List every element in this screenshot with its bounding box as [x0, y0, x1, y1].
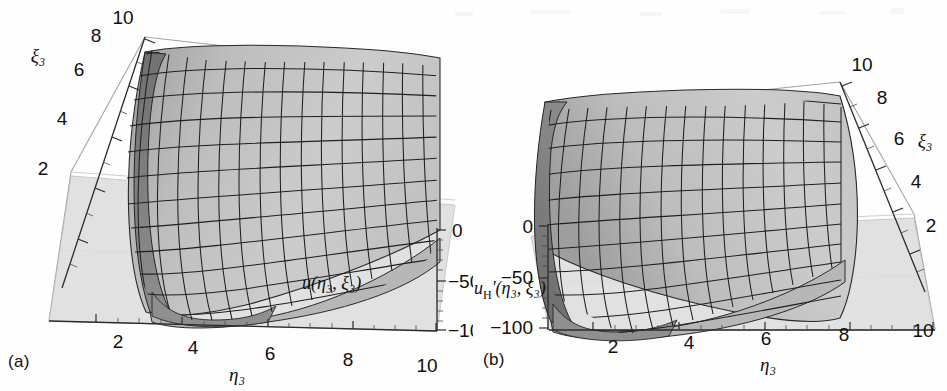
panel-a-svg: 2 4 6 8 10 ξ₃	[0, 0, 473, 391]
z-axis-label-close-b: )	[539, 278, 546, 299]
z-axis-label-xi-b: ξ₃	[526, 278, 540, 298]
z-axis-label-b: uH′(η₃, ξ₃)	[474, 278, 546, 302]
panel-b-svg: 10 8 6 4 2 ξ₃	[473, 0, 947, 391]
panel-caption-b: (b)	[483, 350, 505, 370]
y-tick-label-6-a: 6	[74, 59, 85, 80]
z-axis-label-base-b: u	[474, 278, 483, 298]
scan-artifact	[455, 12, 473, 16]
y-axis-label-text-a: ξ₃	[31, 45, 46, 66]
scan-artifact	[820, 11, 846, 15]
x-tick-label-8-b: 8	[839, 324, 850, 345]
x-tick-label-6-a: 6	[265, 343, 276, 364]
z-tick-label-minus50-a: −50	[448, 271, 473, 292]
x-tick-label-6-b: 6	[761, 328, 772, 349]
y-tick-label-4-b: 4	[911, 171, 922, 192]
surface-mesh-a	[127, 45, 440, 328]
z-tick-label-minus100-b: −100	[490, 317, 533, 338]
z-axis-label-subscript-b: H	[483, 288, 492, 302]
y-tick-label-6-b: 6	[894, 128, 905, 149]
y-tick-label-10-b: 10	[851, 54, 872, 75]
y-tick-label-10-a: 10	[112, 7, 133, 28]
y-tick-label-4-a: 4	[57, 108, 68, 129]
z-tick-label-0-a: 0	[452, 220, 463, 241]
x-tick-label-4-a: 4	[188, 337, 199, 358]
y-axis-label-text-b: ξ₃	[918, 130, 933, 151]
z-axis-label-text-a: u(η₃, ξ₃)	[302, 273, 361, 294]
x-tick-label-2-a: 2	[113, 331, 124, 352]
y-tick-label-2-b: 2	[926, 215, 937, 236]
z-axis-label-a: u(η₃, ξ₃)	[302, 273, 361, 294]
figure-container: 2 4 6 8 10 ξ₃	[0, 0, 947, 391]
x-axis-label-text-b: η₃	[760, 354, 776, 375]
z-axis-label-comma-b: ,	[517, 278, 526, 298]
z-tick-label-minus100-a: −100	[448, 320, 473, 341]
scan-artifact	[530, 10, 570, 14]
z-tick-label-0-b: 0	[522, 216, 533, 237]
y-axis-label-a: ξ₃	[31, 45, 46, 66]
scan-artifact	[640, 12, 662, 16]
panel-caption-a: (a)	[8, 352, 30, 372]
x-tick-label-10-a: 10	[416, 355, 437, 376]
scan-artifact	[890, 8, 904, 14]
x-axis-label-text-a: η₃	[229, 364, 245, 385]
y-tick-label-8-b: 8	[877, 87, 888, 108]
x-tick-label-2-b: 2	[608, 336, 619, 357]
y-tick-label-2-a: 2	[38, 158, 49, 179]
y-tick-label-8-a: 8	[91, 25, 102, 46]
x-axis-label-b: η₃	[760, 354, 776, 375]
surface-plot-panel-a: 2 4 6 8 10 ξ₃	[0, 0, 473, 391]
z-axis-label-eta-b: η₃	[502, 278, 517, 298]
surface-plot-panel-b: 10 8 6 4 2 ξ₃	[473, 0, 947, 391]
y-axis-label-b: ξ₃	[918, 130, 933, 151]
x-tick-label-8-a: 8	[343, 349, 354, 370]
x-axis-label-a: η₃	[229, 364, 245, 385]
x-tick-label-4-b: 4	[684, 332, 695, 353]
x-tick-label-10-b: 10	[912, 320, 933, 341]
scan-artifact	[720, 9, 750, 14]
